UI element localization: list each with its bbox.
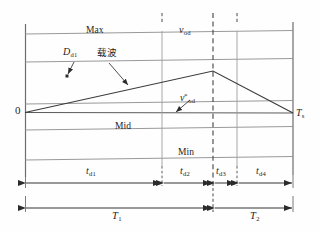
carrier-waveform — [25, 71, 293, 113]
ts-base: T — [296, 107, 302, 118]
interval-label-td1: td1 — [86, 166, 96, 176]
vod-top-sub: od — [184, 29, 191, 36]
level-label-mid: Mid — [115, 122, 131, 132]
duty-ratio-base: D — [63, 46, 70, 57]
gridline-upper — [25, 59, 293, 63]
annotation-vod-star: v*od — [180, 88, 195, 104]
td1-sub: d1 — [89, 170, 96, 177]
gridline-max — [25, 31, 293, 35]
ts-sub: s — [302, 112, 305, 119]
gridline-min — [25, 157, 293, 161]
T1-sub: 1 — [118, 215, 121, 222]
level-label-max: Max — [86, 26, 104, 36]
interval-dimension-row — [26, 175, 294, 188]
annotation-vod-top: vod — [179, 20, 190, 36]
axis-origin-label: 0 — [15, 105, 21, 116]
td3-sub: d3 — [219, 170, 226, 177]
zero-axis-line — [25, 113, 293, 114]
interval-label-td2: td2 — [180, 166, 190, 176]
timing-diagram-canvas — [0, 0, 320, 232]
leader-Dd1 — [66, 62, 75, 78]
leader-carrier — [109, 63, 128, 85]
T2-sub: 2 — [256, 215, 259, 222]
level-label-min: Min — [178, 148, 194, 158]
annotation-duty-ratio: Dd1 — [63, 47, 77, 57]
vod-star-sub: od — [188, 97, 195, 104]
period-label-T2: T2 — [250, 211, 259, 222]
duty-ratio-sub: d1 — [71, 51, 78, 58]
vod-top-base: v — [179, 24, 184, 35]
figure-container: Max Mid Min Dd1 载波 vod v*od 0 Ts td1 td2… — [0, 0, 320, 232]
td4-sub: d4 — [259, 170, 266, 177]
annotation-carrier-wave: 载波 — [97, 48, 118, 58]
period-label-T1: T1 — [112, 211, 121, 222]
td2-sub: d2 — [183, 170, 190, 177]
interval-label-td4: td4 — [256, 166, 266, 176]
axis-end-label: Ts — [296, 108, 304, 118]
gridline-mid — [25, 127, 293, 131]
interval-label-td3: td3 — [216, 166, 226, 176]
